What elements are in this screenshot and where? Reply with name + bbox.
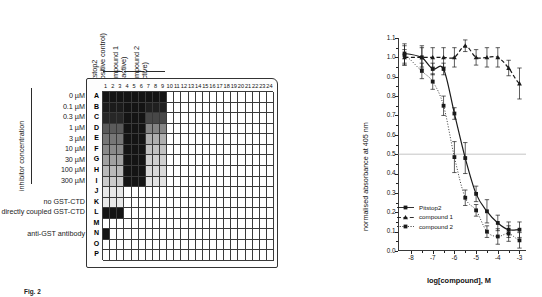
plate-well-C1	[103, 113, 110, 124]
plate-well-B10	[167, 103, 174, 114]
data-point-marker	[507, 232, 511, 236]
plate-well-B16	[210, 103, 217, 114]
plate-well-K4	[124, 198, 131, 209]
plate-well-G23	[260, 155, 267, 166]
plate-column-number: 5	[131, 82, 138, 91]
plate-well-L12	[181, 208, 188, 219]
plate-well-E20	[238, 134, 245, 145]
plate-well-N23	[260, 229, 267, 240]
plate-well-O7	[146, 240, 153, 251]
plate-well-B24	[267, 103, 274, 114]
chart-y-tick-label: 0.5	[387, 151, 396, 157]
plate-well-E15	[203, 134, 210, 145]
plate-well-K1	[103, 198, 110, 209]
plate-well-L23	[260, 208, 267, 219]
plate-well-J7	[146, 187, 153, 198]
plate-well-K21	[246, 198, 253, 209]
chart-y-axis-title: normalised absorbance at 405 nm	[361, 122, 370, 231]
plate-well-I9	[160, 177, 167, 188]
plate-column-number: 11	[173, 82, 180, 91]
plate-well-H23	[260, 166, 267, 177]
plate-well-O16	[210, 240, 217, 251]
plate-well-P20	[238, 250, 245, 261]
plate-well-E7	[146, 134, 153, 145]
plate-well-B19	[231, 103, 238, 114]
plate-well-H9	[160, 166, 167, 177]
plate-row-label-C: 0.3 µM	[63, 112, 85, 122]
plate-row-letter: M	[91, 218, 102, 229]
plate-well-D13	[189, 124, 196, 135]
figure-caption: Fig. 2	[24, 288, 41, 295]
plate-well-A5	[132, 92, 139, 103]
plate-well-A6	[139, 92, 146, 103]
chart-x-tick-label: -4	[495, 255, 501, 261]
plate-well-O22	[253, 240, 260, 251]
plate-column-number: 3	[116, 82, 123, 91]
chart-y-tick-label: 0.2	[387, 209, 396, 215]
chart-y-tick-label: 0.0	[387, 248, 396, 254]
chart-y-minor-tick	[396, 67, 398, 68]
plate-well-B6	[139, 103, 146, 114]
plate-well-G9	[160, 155, 167, 166]
plate-well-N19	[231, 229, 238, 240]
data-point-marker	[463, 43, 468, 47]
plate-well-J23	[260, 187, 267, 198]
plate-column-number: 24	[266, 82, 273, 91]
plate-well-K19	[231, 198, 238, 209]
plate-well-C15	[203, 113, 210, 124]
plate-well-C4	[124, 113, 131, 124]
plate-well-D1	[103, 124, 110, 135]
plate-well-G20	[238, 155, 245, 166]
plate-row-letter: L	[91, 207, 102, 218]
plate-well-D9	[160, 124, 167, 135]
plate-well-C9	[160, 113, 167, 124]
plate-well-G7	[146, 155, 153, 166]
plate-well-B5	[132, 103, 139, 114]
plate-row-label-L: directly coupled GST-CTD	[2, 207, 85, 217]
plate-row-letter: I	[91, 176, 102, 187]
plate-well-G5	[132, 155, 139, 166]
plate-well-E9	[160, 134, 167, 145]
plate-well-G3	[117, 155, 124, 166]
plate-well-O9	[160, 240, 167, 251]
plate-well-A3	[117, 92, 124, 103]
plate-well-M22	[253, 219, 260, 230]
plate-row-label-G: 30 µM	[65, 155, 85, 165]
plate-well-M15	[203, 219, 210, 230]
plate-well-M21	[246, 219, 253, 230]
plate-well-F10	[167, 145, 174, 156]
data-point-marker	[403, 54, 407, 58]
plate-well-A13	[189, 92, 196, 103]
legend-item-3: compound 2	[396, 222, 453, 231]
plate-well-H14	[196, 166, 203, 177]
plate-well-O11	[174, 240, 181, 251]
plate-column-number: 6	[138, 82, 145, 91]
plate-well-L19	[231, 208, 238, 219]
plate-well-H15	[203, 166, 210, 177]
plate-well-B12	[181, 103, 188, 114]
plate-well-P5	[132, 250, 139, 261]
plate-well-G16	[210, 155, 217, 166]
chart-x-axis-title: log[compound], M	[394, 276, 524, 285]
plate-well-H16	[210, 166, 217, 177]
plate-well-C12	[181, 113, 188, 124]
plate-well-K23	[260, 198, 267, 209]
plate-well-L16	[210, 208, 217, 219]
plate-well-J20	[238, 187, 245, 198]
data-point-marker	[442, 67, 446, 71]
plate-well-L7	[146, 208, 153, 219]
plate-well-J13	[189, 187, 196, 198]
plate-column-number: 23	[259, 82, 266, 91]
data-point-marker	[496, 235, 500, 239]
plate-well-M5	[132, 219, 139, 230]
plate-well-D18	[224, 124, 231, 135]
plate-well-O23	[260, 240, 267, 251]
plate-well-P12	[181, 250, 188, 261]
plate-well-J6	[139, 187, 146, 198]
plate-well-O10	[167, 240, 174, 251]
plate-row-letter: B	[91, 102, 102, 113]
plate-well-O14	[196, 240, 203, 251]
plate-well-K11	[174, 198, 181, 209]
chart-legend: Pitstop2compound 1compound 2	[396, 203, 453, 231]
plate-column-number: 13	[188, 82, 195, 91]
